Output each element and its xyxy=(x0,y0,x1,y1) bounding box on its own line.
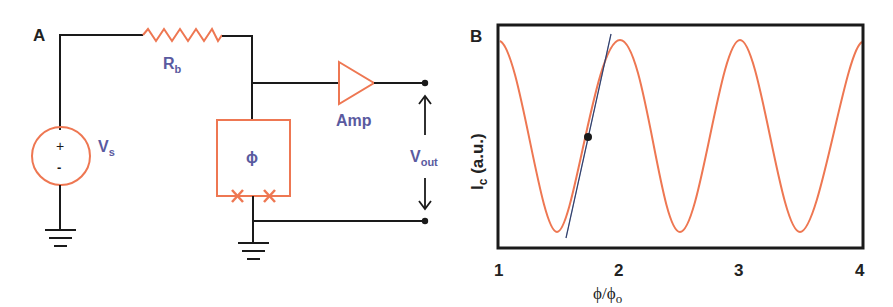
output-terminal-top xyxy=(422,80,428,86)
ic-curve xyxy=(500,40,862,232)
plot-frame xyxy=(498,25,863,248)
operating-point xyxy=(584,133,592,141)
vout-arrow-down-icon xyxy=(419,178,431,209)
wire-source-to-resistor xyxy=(60,35,143,130)
ground-icon xyxy=(45,230,76,246)
output-terminal-bottom xyxy=(422,218,428,224)
plus-sign: + xyxy=(56,138,64,154)
panel-b-chart: B Ic (a.u.) 1 2 3 4 ϕ/ϕo xyxy=(468,25,865,306)
figure: A Rb + - Vs ϕ xyxy=(0,0,893,307)
amplifier-label: Amp xyxy=(336,112,372,129)
ground-icon xyxy=(238,243,269,259)
voltage-source-label: Vs xyxy=(98,138,115,158)
y-axis-title: Ic (a.u.) xyxy=(468,133,490,190)
x-axis-title: ϕ/ϕo xyxy=(593,284,622,306)
x-tick-1: 1 xyxy=(494,261,503,280)
amplifier-icon xyxy=(339,62,374,104)
x-tick-2: 2 xyxy=(614,261,623,280)
vout-arrow-up-icon xyxy=(419,96,431,135)
resistor-icon xyxy=(143,29,222,41)
panel-a-circuit: A Rb + - Vs ϕ xyxy=(32,26,438,259)
panel-a-label: A xyxy=(33,26,45,45)
vout-label: Vout xyxy=(410,148,438,168)
flux-label: ϕ xyxy=(246,149,258,166)
x-tick-4: 4 xyxy=(855,261,865,280)
resistor-label: Rb xyxy=(163,55,182,75)
panel-b-label: B xyxy=(470,27,482,46)
voltage-source-icon xyxy=(32,127,90,185)
minus-sign: - xyxy=(57,160,61,175)
wire-resistor-to-squid xyxy=(222,36,252,120)
x-tick-3: 3 xyxy=(734,261,743,280)
